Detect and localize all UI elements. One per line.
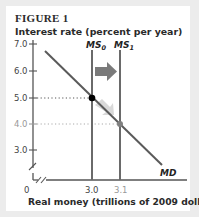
- movement-arrow-icon: [95, 98, 117, 118]
- md-label: MD: [160, 168, 177, 178]
- x-axis-break-icon-2: [41, 177, 46, 183]
- equilibrium-new: [117, 121, 123, 127]
- ms0-label: MS0: [86, 40, 106, 52]
- x-tick-label-3-0: 3.0: [85, 185, 99, 195]
- x-axis-title: Real money (trillions of 2009 dollars): [28, 196, 199, 207]
- y-tick-label-5: 5.0: [14, 93, 28, 103]
- shift-arrow-icon: [95, 62, 117, 81]
- ms1-label: MS1: [114, 40, 134, 52]
- y-tick-label-4: 4.0: [14, 119, 28, 129]
- y-tick-label-3: 3.0: [14, 145, 28, 155]
- equilibrium-initial: [89, 95, 96, 102]
- y-tick-label-7: 7.0: [14, 39, 28, 49]
- chart-plot: 7.0 6.0 5.0 4.0 3.0 MS0 MS1 MD 0 3.0 3.1: [0, 0, 199, 217]
- y-tick-label-6: 6.0: [14, 66, 28, 76]
- x-tick-label-3-1: 3.1: [114, 185, 128, 195]
- x-tick-label-0: 0: [24, 185, 29, 195]
